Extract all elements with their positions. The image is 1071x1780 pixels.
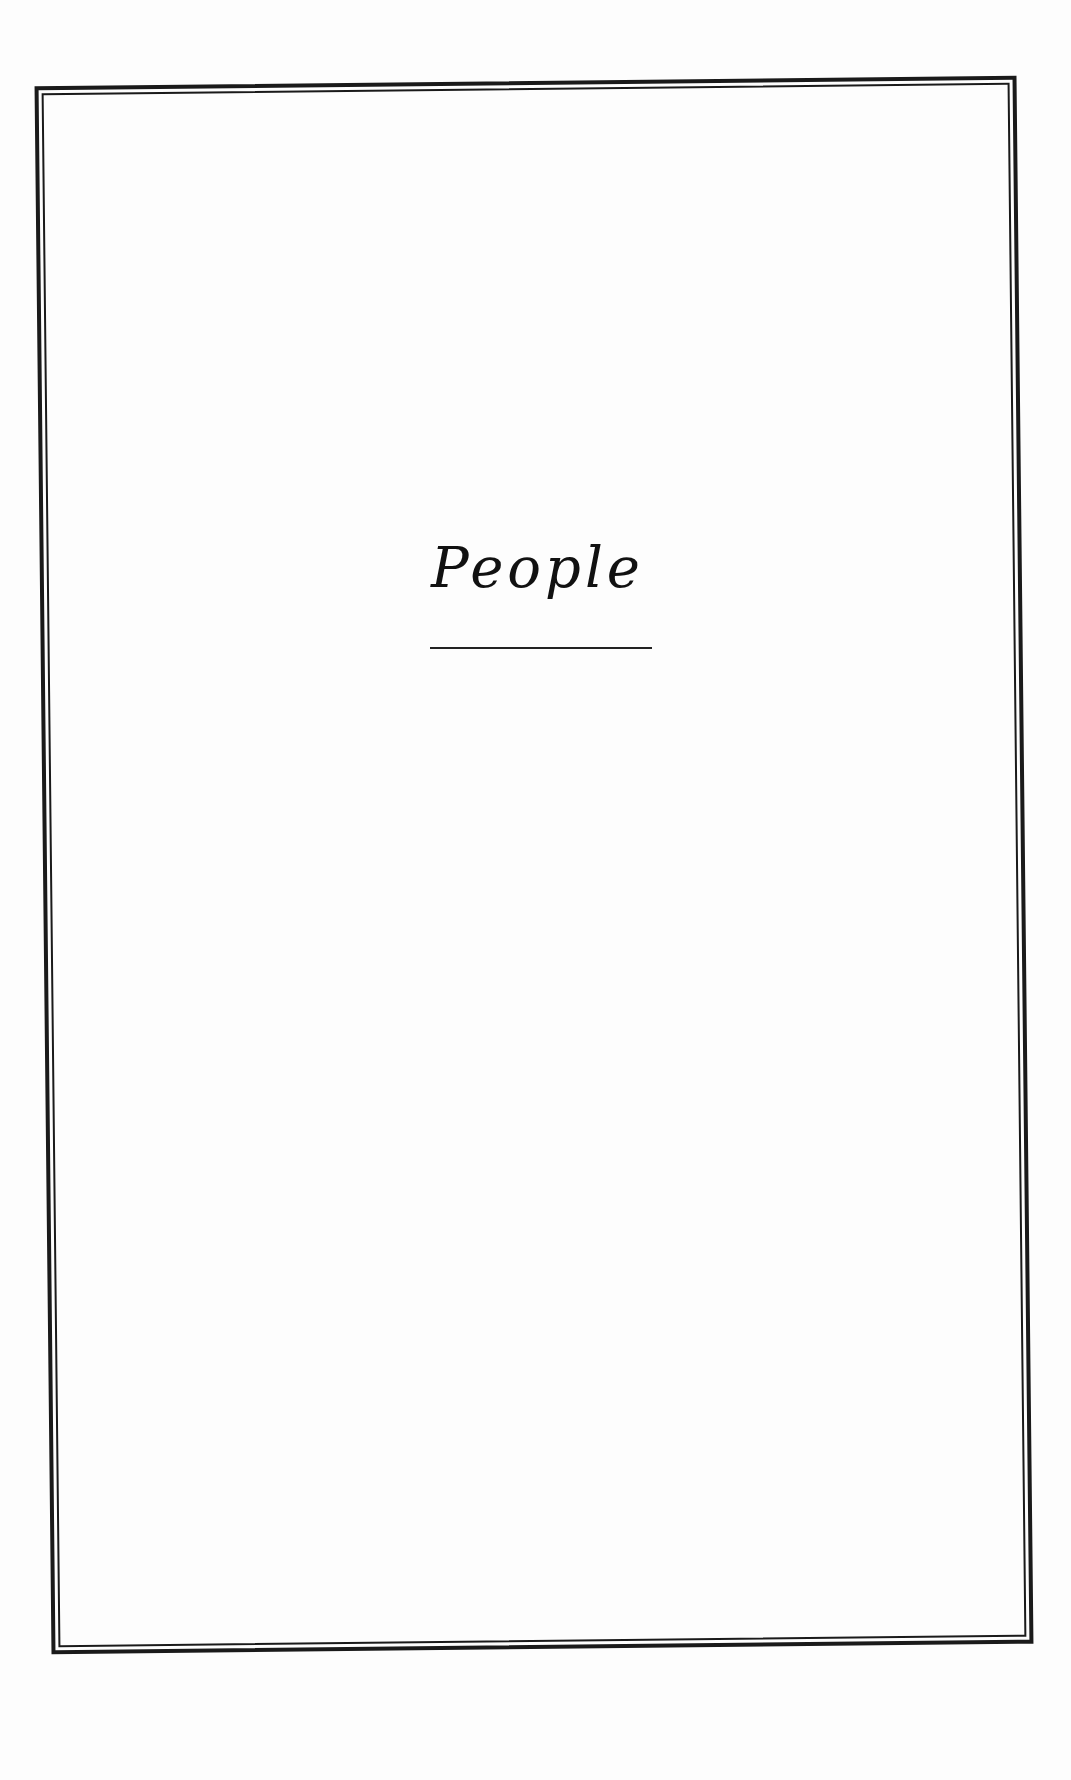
title-block: People [0,540,1071,596]
title-underline-rule [430,647,652,649]
page-border-inner [42,83,1027,1647]
section-title: People [431,540,644,596]
page-border-outer [35,76,1034,1655]
